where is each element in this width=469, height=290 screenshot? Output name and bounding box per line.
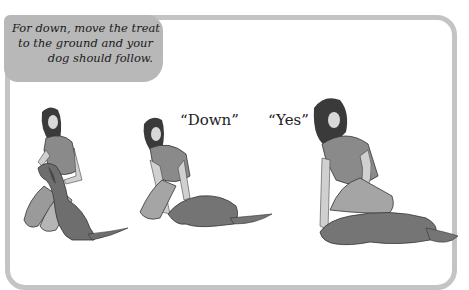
panel-1-sit	[24, 107, 128, 240]
caption-line-2: to the ground and your	[12, 36, 153, 51]
instruction-callout: For down, move the treat to the ground a…	[4, 15, 163, 82]
caption-line-1: For down, move the treat	[12, 21, 153, 36]
quote-yes: “Yes”	[268, 111, 309, 129]
panel-2-down	[140, 118, 272, 227]
quote-down: “Down”	[180, 111, 239, 129]
caption-line-3: dog should follow.	[12, 51, 153, 66]
panel-3-yes	[314, 98, 458, 244]
